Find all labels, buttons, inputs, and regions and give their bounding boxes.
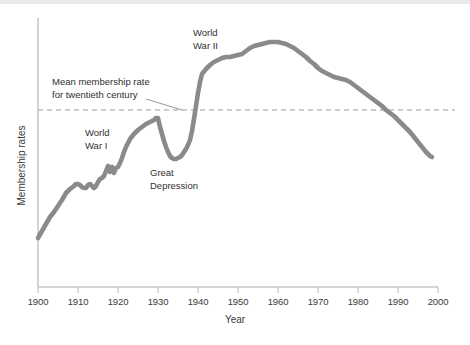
annotation-ww1-line2: War I: [85, 140, 110, 153]
annotation-world-war-two: World War II: [193, 27, 218, 52]
x-tick-label-1960: 1960: [268, 296, 289, 307]
x-tick-label-1920: 1920: [108, 296, 129, 307]
x-tick-label-1990: 1990: [388, 296, 409, 307]
x-tick-label-1900: 1900: [28, 296, 49, 307]
y-axis-title: Membership rates: [16, 96, 27, 236]
x-axis-title: Year: [0, 314, 470, 325]
annotation-ww1-line1: World: [85, 127, 110, 140]
annotation-ww2-line1: World: [193, 27, 218, 40]
annotation-gd-line2: Depression: [150, 180, 198, 193]
x-tick-label-2000: 2000: [428, 296, 449, 307]
annotation-mean-membership-rate: Mean membership rate for twentieth centu…: [52, 76, 150, 101]
x-tick-label-1980: 1980: [348, 296, 369, 307]
annotation-mean-line1: Mean membership rate: [52, 76, 150, 89]
annotation-great-depression: Great Depression: [150, 167, 198, 192]
chart-figure: 1900 1910 1920 1930 1940 1950 1960 1970 …: [0, 0, 470, 345]
x-tick-label-1910: 1910: [68, 296, 89, 307]
x-axis-ticks: [38, 287, 438, 293]
x-tick-label-1950: 1950: [228, 296, 249, 307]
annotation-ww2-line2: War II: [193, 40, 218, 53]
x-tick-label-1930: 1930: [148, 296, 169, 307]
chart-plot-area: [0, 0, 470, 345]
annotation-world-war-one: World War I: [85, 127, 110, 152]
x-tick-label-1970: 1970: [308, 296, 329, 307]
annotation-gd-line1: Great: [150, 167, 198, 180]
x-tick-label-1940: 1940: [188, 296, 209, 307]
annotation-mean-line2: for twentieth century: [52, 89, 150, 102]
mean-annotation-leader-line: [146, 99, 182, 110]
